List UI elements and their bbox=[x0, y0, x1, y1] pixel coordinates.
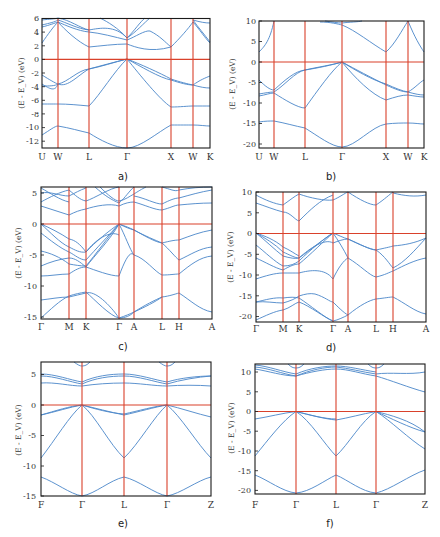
y-axis-label: (E - E_V) (eV) bbox=[14, 227, 23, 278]
x-axis-kpoint-labels: U W L Γ X W K bbox=[255, 152, 427, 162]
x-axis-kpoint-labels: U W L Γ X W K bbox=[38, 152, 213, 162]
band-lines bbox=[42, 18, 210, 148]
panel-caption: a) bbox=[118, 171, 128, 182]
svg-text:0: 0 bbox=[31, 401, 36, 410]
svg-text:0: 0 bbox=[251, 58, 256, 67]
panel-caption: c) bbox=[118, 341, 127, 352]
svg-text:-6: -6 bbox=[31, 96, 39, 105]
panel-c: 5 0 -5 -10 -15 (E - E_V) (eV) Γ M K Γ A … bbox=[14, 187, 216, 352]
svg-text:K: K bbox=[83, 322, 90, 332]
panel-d: 10 5 0 -5 -10 -15 -20 (E - E_V) (eV) Γ M… bbox=[226, 188, 430, 353]
svg-text:5: 5 bbox=[246, 388, 251, 397]
svg-text:-12: -12 bbox=[26, 137, 39, 146]
band-lines bbox=[256, 192, 426, 321]
svg-text:-15: -15 bbox=[238, 467, 251, 476]
svg-text:4: 4 bbox=[34, 28, 39, 37]
svg-text:U: U bbox=[38, 152, 46, 162]
panel-b: 10 5 0 -5 -10 -15 -20 (E - E_V) (eV) U W… bbox=[228, 17, 428, 182]
svg-text:M: M bbox=[278, 324, 287, 334]
svg-text:2: 2 bbox=[34, 42, 39, 51]
svg-text:10: 10 bbox=[242, 188, 252, 197]
svg-text:U: U bbox=[255, 152, 263, 162]
panel-e: 5 0 -5 -10 -15 (E - E_V) (eV) F Γ L Γ Z … bbox=[14, 362, 214, 529]
svg-text:K: K bbox=[207, 152, 214, 162]
svg-text:F: F bbox=[38, 500, 44, 510]
svg-text:-15: -15 bbox=[24, 313, 37, 322]
svg-text:-2: -2 bbox=[31, 69, 39, 78]
svg-text:-20: -20 bbox=[238, 486, 251, 495]
band-lines bbox=[41, 362, 211, 496]
svg-text:L: L bbox=[373, 324, 379, 334]
svg-text:X: X bbox=[168, 152, 175, 162]
svg-text:5: 5 bbox=[32, 189, 37, 198]
svg-text:-5: -5 bbox=[248, 78, 256, 87]
svg-text:Z: Z bbox=[208, 500, 214, 510]
y-axis-label: (E - E_V) (eV) bbox=[17, 57, 26, 108]
y-axis-label: (E - E_V) (eV) bbox=[14, 404, 23, 455]
svg-text:0: 0 bbox=[246, 407, 251, 416]
svg-text:A: A bbox=[344, 324, 352, 334]
svg-text:-5: -5 bbox=[244, 250, 252, 259]
svg-text:A: A bbox=[208, 322, 216, 332]
svg-text:10: 10 bbox=[246, 17, 256, 26]
svg-text:K: K bbox=[296, 324, 303, 334]
panel-a: 6 4 2 0 -2 -4 -6 -8 -10 -12 (E - E_V) (e… bbox=[17, 14, 214, 182]
svg-text:6: 6 bbox=[34, 14, 39, 23]
svg-text:0: 0 bbox=[247, 229, 252, 238]
x-axis-kpoint-labels: Γ M K Γ A L H A bbox=[38, 322, 216, 332]
x-axis-kpoint-labels: F Γ L Γ Z bbox=[252, 500, 428, 510]
svg-text:A: A bbox=[422, 324, 430, 334]
svg-text:0: 0 bbox=[34, 55, 39, 64]
svg-text:M: M bbox=[64, 322, 73, 332]
svg-text:F: F bbox=[252, 500, 258, 510]
svg-text:Γ: Γ bbox=[253, 324, 259, 334]
svg-text:L: L bbox=[302, 152, 308, 162]
svg-text:-8: -8 bbox=[31, 110, 39, 119]
svg-text:-10: -10 bbox=[24, 282, 37, 291]
svg-text:-5: -5 bbox=[28, 431, 36, 440]
svg-text:K: K bbox=[421, 152, 428, 162]
panel-caption: e) bbox=[118, 518, 128, 529]
svg-text:-10: -10 bbox=[26, 123, 39, 132]
band-lines bbox=[41, 187, 212, 318]
svg-text:Γ: Γ bbox=[116, 322, 122, 332]
panel-caption: b) bbox=[326, 171, 336, 182]
svg-text:0: 0 bbox=[32, 220, 37, 229]
svg-text:Γ: Γ bbox=[293, 500, 299, 510]
svg-text:-20: -20 bbox=[243, 140, 256, 149]
svg-text:-10: -10 bbox=[243, 99, 256, 108]
svg-text:-5: -5 bbox=[29, 251, 37, 260]
svg-text:-4: -4 bbox=[31, 83, 39, 92]
band-lines bbox=[255, 364, 425, 493]
svg-text:-10: -10 bbox=[23, 462, 36, 471]
svg-text:H: H bbox=[389, 324, 397, 334]
svg-text:L: L bbox=[333, 500, 339, 510]
panel-caption: f) bbox=[326, 518, 334, 529]
svg-text:-15: -15 bbox=[239, 292, 252, 301]
svg-text:L: L bbox=[159, 322, 165, 332]
svg-text:L: L bbox=[121, 500, 127, 510]
svg-text:W: W bbox=[403, 152, 413, 162]
svg-text:-15: -15 bbox=[243, 119, 256, 128]
svg-text:Γ: Γ bbox=[79, 500, 85, 510]
svg-text:Γ: Γ bbox=[164, 500, 170, 510]
svg-text:Γ: Γ bbox=[124, 152, 130, 162]
y-axis-label: (E - E_V) (eV) bbox=[226, 231, 235, 282]
y-axis-label: (E - E_V) (eV) bbox=[227, 402, 236, 453]
y-axis-label: (E - E_V) (eV) bbox=[228, 58, 237, 109]
plot-frame bbox=[41, 187, 212, 319]
x-axis-kpoint-labels: Γ M K Γ A L H A bbox=[253, 324, 430, 334]
svg-text:5: 5 bbox=[251, 37, 256, 46]
svg-text:Γ: Γ bbox=[373, 500, 379, 510]
band-structure-figure: 6 4 2 0 -2 -4 -6 -8 -10 -12 (E - E_V) (e… bbox=[0, 0, 440, 537]
svg-text:-10: -10 bbox=[238, 447, 251, 456]
svg-text:-20: -20 bbox=[239, 312, 252, 321]
svg-text:Z: Z bbox=[422, 500, 428, 510]
svg-text:A: A bbox=[130, 322, 138, 332]
svg-text:-5: -5 bbox=[243, 427, 251, 436]
plot-frame bbox=[41, 362, 211, 496]
svg-text:Γ: Γ bbox=[38, 322, 44, 332]
svg-text:W: W bbox=[188, 152, 198, 162]
svg-text:10: 10 bbox=[241, 368, 251, 377]
svg-text:-10: -10 bbox=[239, 271, 252, 280]
